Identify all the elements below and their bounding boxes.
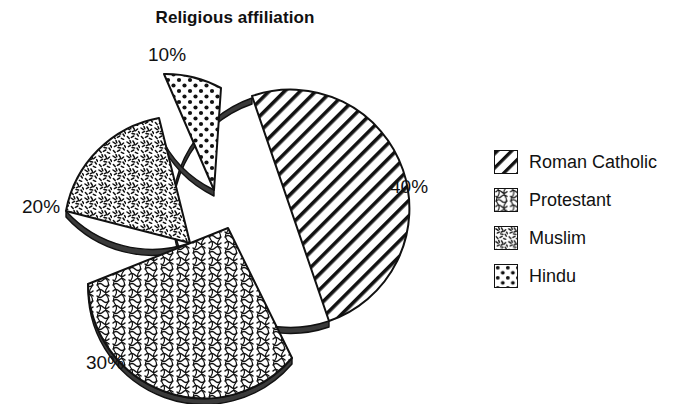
legend-swatch-polka-dots-icon [494,264,518,288]
legend-item-muslim: Muslim [494,219,694,257]
pie-slice-roman-catholic [252,90,409,321]
pie-value-label-hindu: 10% [148,44,186,66]
legend-item-hindu: Hindu [494,257,694,295]
legend-item-roman-catholic: Roman Catholic [494,143,694,181]
pie-value-label-roman-catholic: 40% [390,176,428,198]
legend-swatch-speckle-icon [494,226,518,250]
pie-chart-figure: Religious affiliation [0,0,699,404]
legend-label-hindu: Hindu [529,266,576,287]
legend-label-muslim: Muslim [529,228,586,249]
legend-label-protestant: Protestant [529,190,611,211]
legend-swatch-wavy-squiggle-icon [494,188,518,212]
legend-label-roman-catholic: Roman Catholic [529,152,657,173]
pie-slice-muslim [66,118,190,243]
legend-swatch-diagonal-stripes-icon [494,150,518,174]
legend-item-protestant: Protestant [494,181,694,219]
pie-value-label-protestant: 30% [86,352,124,374]
pie-value-label-muslim: 20% [22,196,60,218]
chart-legend: Roman Catholic Protestant Muslim [494,143,694,295]
